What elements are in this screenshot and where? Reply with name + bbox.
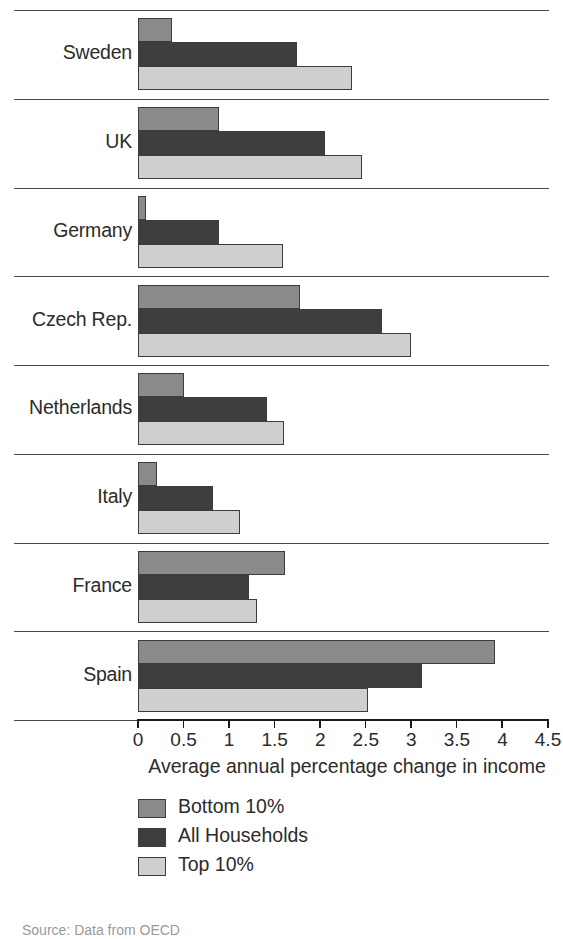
- legend-label: All Households: [178, 824, 308, 847]
- bar-all-households: [138, 486, 213, 510]
- bar-bottom-10: [138, 285, 300, 309]
- bar-all-households: [138, 575, 249, 599]
- category-label: Spain: [0, 663, 132, 686]
- x-axis-tick: [137, 719, 139, 728]
- country-group: Netherlands: [0, 365, 563, 454]
- category-label: Netherlands: [0, 396, 132, 419]
- category-label: Germany: [0, 219, 132, 242]
- bar-top-10: [138, 688, 368, 712]
- x-axis-tick-label: 2: [315, 729, 326, 751]
- plot-area: SwedenUKGermanyCzech Rep.NetherlandsItal…: [0, 0, 563, 730]
- bar-all-households: [138, 42, 297, 66]
- x-axis-tick-label: 3: [406, 729, 417, 751]
- x-axis-tick: [456, 719, 458, 728]
- x-axis-tick-label: 2.5: [353, 729, 379, 751]
- legend-item: Bottom 10%: [138, 795, 438, 824]
- category-label: Czech Rep.: [0, 308, 132, 331]
- bar-top-10: [138, 333, 411, 357]
- x-axis-tick-label: 0.5: [170, 729, 196, 751]
- country-group: Sweden: [0, 10, 563, 99]
- x-axis-tick: [501, 719, 503, 728]
- bar-bottom-10: [138, 18, 172, 42]
- legend-swatch: [138, 799, 166, 818]
- category-label: Italy: [0, 485, 132, 508]
- x-axis-tick-label: 3.5: [444, 729, 470, 751]
- country-group: France: [0, 543, 563, 632]
- bar-top-10: [138, 510, 240, 534]
- bar-top-10: [138, 155, 362, 179]
- x-axis-tick: [183, 719, 185, 728]
- bar-bottom-10: [138, 107, 219, 131]
- bar-all-households: [138, 131, 325, 155]
- x-axis-tick-label: 4.5: [535, 729, 561, 751]
- bar-all-households: [138, 664, 422, 688]
- category-label: France: [0, 574, 132, 597]
- x-axis-line: [137, 719, 549, 721]
- legend-label: Bottom 10%: [178, 795, 284, 818]
- x-axis-tick-label: 4: [497, 729, 508, 751]
- bar-bottom-10: [138, 462, 157, 486]
- x-axis-tick-label: 1.5: [261, 729, 287, 751]
- x-axis-tick-label: 1: [224, 729, 235, 751]
- bar-bottom-10: [138, 640, 495, 664]
- bar-all-households: [138, 220, 219, 244]
- legend-swatch: [138, 828, 166, 847]
- legend-swatch: [138, 857, 166, 876]
- bar-all-households: [138, 397, 267, 421]
- bar-chart: SwedenUKGermanyCzech Rep.NetherlandsItal…: [0, 0, 563, 939]
- country-group: Czech Rep.: [0, 276, 563, 365]
- x-axis-tick: [365, 719, 367, 728]
- x-axis-tick: [228, 719, 230, 728]
- bar-bottom-10: [138, 373, 184, 397]
- bar-top-10: [138, 66, 352, 90]
- source-note: Source: Data from OECD: [22, 922, 180, 938]
- category-label: Sweden: [0, 41, 132, 64]
- x-axis-title: Average annual percentage change in inco…: [137, 755, 557, 778]
- bar-top-10: [138, 421, 284, 445]
- chart-legend: Bottom 10%All HouseholdsTop 10%: [138, 795, 438, 882]
- country-group: Italy: [0, 454, 563, 543]
- x-axis-tick: [319, 719, 321, 728]
- x-axis-tick: [410, 719, 412, 728]
- country-group: UK: [0, 99, 563, 188]
- x-axis-tick: [547, 719, 549, 728]
- bar-bottom-10: [138, 551, 285, 575]
- country-group: Germany: [0, 188, 563, 277]
- bar-bottom-10: [138, 196, 146, 220]
- legend-item: Top 10%: [138, 853, 438, 882]
- category-label: UK: [0, 130, 132, 153]
- bar-top-10: [138, 244, 283, 268]
- bar-top-10: [138, 599, 257, 623]
- legend-label: Top 10%: [178, 853, 254, 876]
- x-axis-tick-label: 0: [133, 729, 144, 751]
- x-axis-tick: [274, 719, 276, 728]
- country-group: Spain: [0, 631, 563, 720]
- bar-all-households: [138, 309, 382, 333]
- legend-item: All Households: [138, 824, 438, 853]
